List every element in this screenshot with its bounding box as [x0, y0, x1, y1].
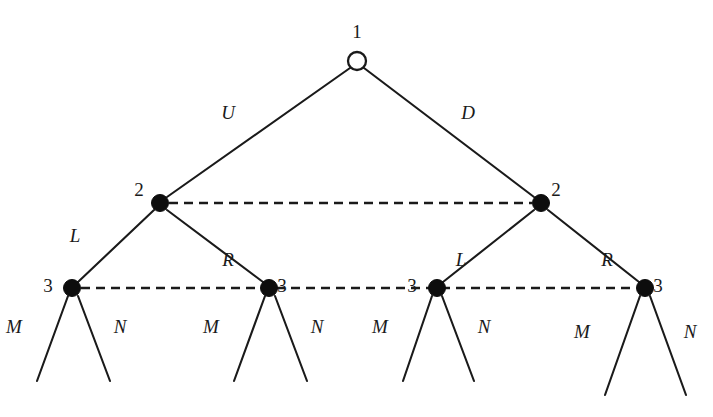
edge-e-root-U	[167, 68, 350, 197]
decision-node-n2R[interactable]	[533, 195, 550, 212]
decision-node-n3b[interactable]	[261, 280, 278, 297]
information-set-group	[81, 203, 636, 288]
edge-label-d-1: D	[461, 103, 475, 122]
terminal-branch-group	[37, 296, 686, 395]
node-group	[64, 52, 654, 297]
terminal-label-n-7: N	[684, 322, 697, 341]
decision-node-n2L[interactable]	[152, 195, 169, 212]
edge-group	[78, 68, 639, 282]
edge-label-r-5: R	[601, 250, 613, 269]
edge-e-2L-R	[167, 210, 263, 282]
edge-label-l-2: L	[70, 226, 81, 245]
player-label-root: 1	[352, 22, 362, 41]
terminal-label-m-4: M	[372, 317, 388, 336]
edge-e-2R-L	[443, 210, 534, 282]
terminal-label-m-2: M	[203, 317, 219, 336]
decision-node-n3c[interactable]	[429, 280, 446, 297]
terminal-label-m-0: M	[6, 317, 22, 336]
terminal-t-d-M	[605, 296, 640, 395]
edge-e-2R-R	[548, 210, 639, 282]
player-label-n3d: 3	[653, 276, 663, 295]
terminal-t-c-N	[442, 296, 474, 381]
player-label-n3c: 3	[407, 276, 417, 295]
terminal-t-b-N	[275, 296, 307, 381]
terminal-label-n-3: N	[311, 317, 324, 336]
decision-node-n3a[interactable]	[64, 280, 81, 297]
player-label-n2R: 2	[551, 180, 561, 199]
terminal-t-a-M	[37, 296, 68, 381]
terminal-label-n-1: N	[114, 317, 127, 336]
terminal-label-m-6: M	[574, 322, 590, 341]
terminal-t-b-M	[234, 296, 265, 381]
decision-node-n3d[interactable]	[637, 280, 654, 297]
edge-e-root-D	[364, 68, 534, 197]
terminal-t-c-M	[403, 296, 432, 381]
game-tree-canvas	[0, 0, 713, 417]
edge-label-u-0: U	[221, 103, 235, 122]
game-tree-diagram: UDLRLRMNMNMNMN1223333	[0, 0, 713, 417]
terminal-t-d-N	[650, 296, 686, 395]
edge-e-2L-L	[78, 210, 154, 282]
player-label-n3a: 3	[43, 276, 53, 295]
terminal-label-n-5: N	[478, 317, 491, 336]
edge-label-l-4: L	[456, 250, 467, 269]
edge-label-r-3: R	[222, 250, 234, 269]
terminal-t-a-N	[78, 296, 110, 381]
decision-node-root[interactable]	[348, 52, 366, 70]
player-label-n2L: 2	[134, 180, 144, 199]
player-label-n3b: 3	[277, 276, 287, 295]
